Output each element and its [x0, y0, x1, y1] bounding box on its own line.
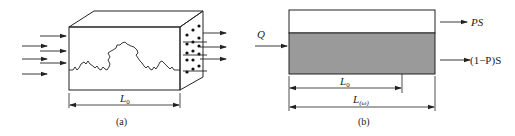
dimension-label-L0-a: L0: [119, 92, 130, 106]
input-arrows: [22, 36, 66, 74]
shaded-lower-layer: [289, 33, 435, 74]
upper-layer: [289, 10, 435, 33]
panel-b: Q PS (1−P)S L0 L(ω) (b): [255, 10, 501, 128]
output-arrows: [183, 33, 226, 71]
dimension-label-L-omega: L(ω): [352, 93, 369, 107]
porous-block: [69, 11, 203, 90]
panel-a: L0 (a): [22, 11, 226, 128]
label-1-minus-P-S: (1−P)S: [470, 54, 501, 67]
caption-a: (a): [116, 116, 127, 128]
diagram-canvas: L0 (a) Q PS (1−P)S L0 L(ω) (b): [0, 0, 515, 136]
dimension-label-L0-b: L0: [339, 75, 350, 89]
label-PS: PS: [470, 16, 484, 28]
front-face: [69, 27, 180, 90]
fractal-interface-curve: [69, 42, 180, 70]
label-Q: Q: [257, 28, 265, 40]
particle-dots: [185, 24, 200, 73]
caption-b: (b): [358, 116, 370, 128]
